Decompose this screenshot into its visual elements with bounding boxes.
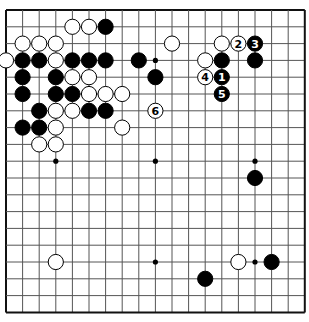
white-stone	[115, 86, 130, 101]
white-stone	[48, 53, 63, 68]
white-stone	[115, 120, 130, 135]
move-number: 5	[218, 88, 226, 101]
black-stone	[264, 254, 279, 269]
black-stone	[98, 53, 113, 68]
white-stone	[0, 53, 14, 68]
black-stone	[15, 70, 30, 85]
black-stone	[32, 53, 47, 68]
black-stone	[32, 103, 47, 118]
move-number: 1	[218, 71, 226, 84]
move-number: 2	[235, 38, 243, 51]
white-stone	[48, 137, 63, 152]
black-stone: 1	[214, 70, 229, 85]
black-stone	[214, 53, 229, 68]
black-stone	[48, 86, 63, 101]
white-stone	[65, 103, 80, 118]
white-stone	[81, 70, 96, 85]
white-stone	[231, 254, 246, 269]
star-point	[153, 58, 158, 63]
black-stone	[32, 120, 47, 135]
white-stone	[81, 19, 96, 34]
white-stone	[48, 103, 63, 118]
black-stone	[148, 70, 163, 85]
black-stone	[65, 86, 80, 101]
black-stone	[131, 53, 146, 68]
black-stone	[15, 120, 30, 135]
white-stone: 2	[231, 36, 246, 51]
star-point	[252, 159, 257, 164]
black-stone	[15, 53, 30, 68]
move-number: 4	[201, 71, 209, 84]
stones-layer: 234156	[0, 19, 279, 286]
go-board: 234156	[0, 0, 309, 322]
star-point	[252, 259, 257, 264]
black-stone	[65, 53, 80, 68]
white-stone	[98, 86, 113, 101]
star-point	[53, 159, 58, 164]
white-stone	[65, 70, 80, 85]
star-point	[153, 259, 158, 264]
black-stone	[98, 103, 113, 118]
black-stone	[247, 53, 262, 68]
black-stone	[247, 170, 262, 185]
white-stone	[198, 53, 213, 68]
black-stone	[48, 70, 63, 85]
white-stone	[65, 19, 80, 34]
black-stone	[198, 271, 213, 286]
white-stone	[164, 36, 179, 51]
white-stone: 6	[148, 103, 163, 118]
white-stone	[15, 36, 30, 51]
black-stone	[81, 103, 96, 118]
white-stone: 4	[198, 70, 213, 85]
star-point	[153, 159, 158, 164]
white-stone	[214, 36, 229, 51]
white-stone	[48, 254, 63, 269]
black-stone	[81, 53, 96, 68]
black-stone	[15, 86, 30, 101]
black-stone: 5	[214, 86, 229, 101]
white-stone	[48, 36, 63, 51]
black-stone	[98, 19, 113, 34]
white-stone	[48, 120, 63, 135]
move-number: 3	[251, 38, 259, 51]
white-stone	[32, 36, 47, 51]
black-stone: 3	[247, 36, 262, 51]
move-number: 6	[152, 105, 160, 118]
white-stone	[81, 86, 96, 101]
white-stone	[32, 137, 47, 152]
